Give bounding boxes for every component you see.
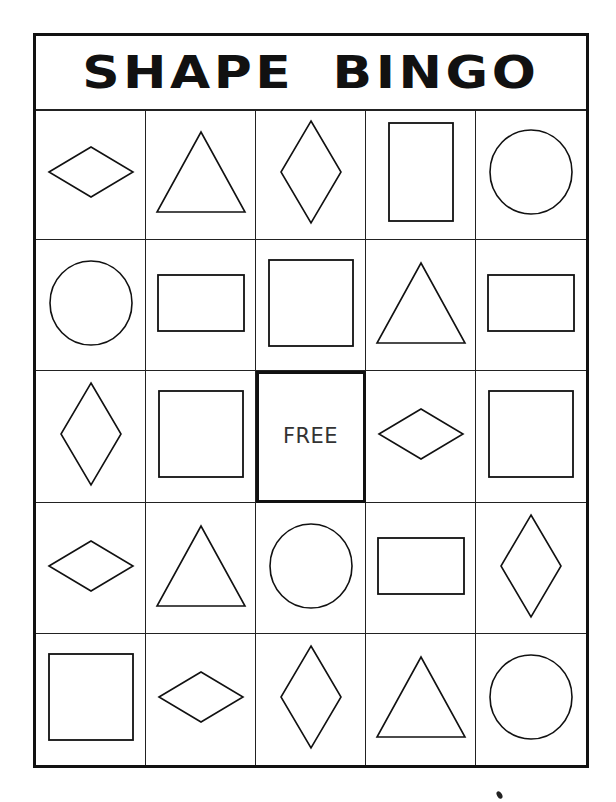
bingo-cell[interactable] [256,109,366,240]
circle-icon [48,259,134,351]
bingo-cell[interactable] [366,371,476,502]
diamond-wide-icon [48,146,134,202]
triangle-icon [156,525,246,611]
square-icon [48,653,134,745]
triangle-icon [376,656,466,742]
bingo-card: SHAPE BINGO FREE [33,33,589,768]
triangle-icon [156,131,246,217]
title-row: SHAPE BINGO [36,36,586,111]
bingo-cell[interactable] [36,634,146,765]
bingo-cell[interactable] [476,371,586,502]
bingo-grid: FREE [36,109,586,765]
diamond-wide-icon [378,408,464,464]
free-space-cell[interactable]: FREE [256,371,366,502]
bingo-cell[interactable] [366,634,476,765]
bingo-cell[interactable] [146,634,256,765]
diamond-tall-icon [500,514,562,622]
diamond-tall-icon [280,120,342,228]
card-title: SHAPE BINGO [82,47,539,98]
bingo-cell[interactable] [476,503,586,634]
circle-icon [268,522,354,614]
triangle-icon [376,262,466,348]
square-icon [268,259,354,351]
square-icon [488,390,574,482]
bingo-cell[interactable] [146,371,256,502]
bingo-cell[interactable] [366,109,476,240]
bingo-cell[interactable] [146,240,256,371]
circle-icon [488,128,574,220]
free-label: FREE [283,424,338,448]
rectangle-tall-icon [388,122,454,226]
rectangle-wide-icon [487,274,575,336]
bingo-cell[interactable] [366,240,476,371]
rectangle-wide-icon [157,274,245,336]
diamond-tall-icon [60,382,122,490]
circle-icon [488,653,574,745]
bingo-cell[interactable] [36,503,146,634]
bingo-cell[interactable] [256,634,366,765]
bingo-cell[interactable] [36,109,146,240]
bingo-cell[interactable] [36,371,146,502]
diamond-wide-icon [158,671,244,727]
bingo-cell[interactable] [146,109,256,240]
bingo-cell[interactable] [476,109,586,240]
diamond-tall-icon [280,645,342,753]
bingo-cell[interactable] [256,240,366,371]
bingo-cell[interactable] [256,503,366,634]
bingo-cell[interactable] [366,503,476,634]
bingo-cell[interactable] [476,634,586,765]
bingo-cell[interactable] [476,240,586,371]
diamond-wide-icon [48,540,134,596]
bingo-cell[interactable] [146,503,256,634]
rectangle-wide-icon [377,537,465,599]
bingo-cell[interactable] [36,240,146,371]
ink-speck [495,790,503,799]
square-icon [158,390,244,482]
